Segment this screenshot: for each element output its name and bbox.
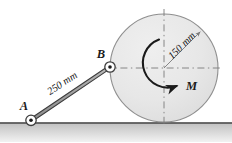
mechanism-diagram: 150 mm M 250 mm A B (0, 0, 232, 142)
pin-joint-a: A (19, 99, 36, 126)
figure-container: 150 mm M 250 mm A B (0, 0, 232, 142)
label-point-b: B (96, 47, 105, 61)
moment-label: M (185, 79, 198, 93)
bar-AB: 250 mm (28, 63, 113, 124)
label-point-a: A (19, 99, 28, 113)
pin-a-dot (29, 119, 33, 123)
ground-hatch (0, 124, 232, 143)
pin-b-dot (108, 65, 112, 69)
ground-surface (0, 123, 232, 142)
disk: 150 mm M (105, 9, 223, 127)
